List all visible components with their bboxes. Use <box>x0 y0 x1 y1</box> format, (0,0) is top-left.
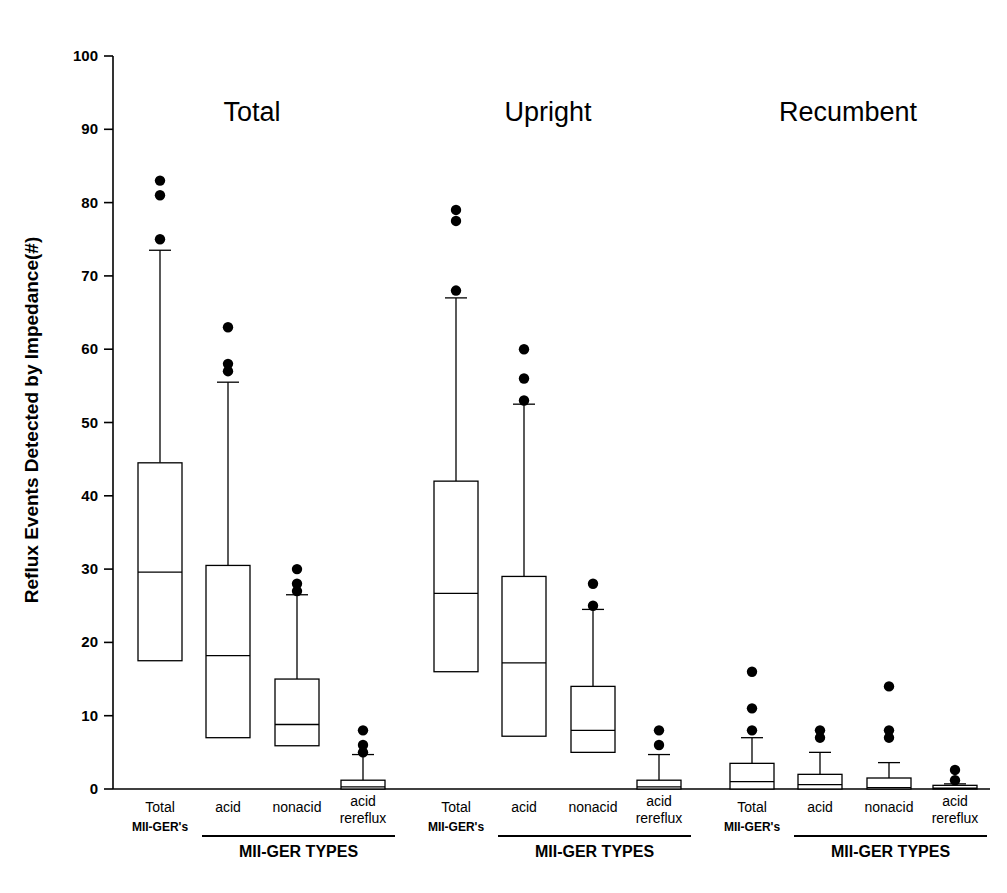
outlier-point <box>884 732 894 742</box>
y-axis-title: Reflux Events Detected by Impedance(#) <box>21 237 42 603</box>
y-tick-label: 10 <box>81 707 98 724</box>
box-body <box>571 686 615 752</box>
boxplot-svg: Reflux Events Detected by Impedance(#) 0… <box>0 0 1007 893</box>
box-body <box>434 481 478 672</box>
y-tick-label: 40 <box>81 487 98 504</box>
cat-label-nonacid: nonacid <box>272 799 321 815</box>
box-body <box>275 679 319 746</box>
chart-figure: Reflux Events Detected by Impedance(#) 0… <box>0 0 1007 893</box>
box-body <box>798 774 842 789</box>
outlier-point <box>155 190 165 200</box>
y-tick-label: 20 <box>81 633 98 650</box>
group-axis-label: MII-GER TYPES <box>535 843 654 860</box>
y-tick-label: 80 <box>81 194 98 211</box>
panel-title-recumbent: Recumbent <box>779 97 918 127</box>
outlier-point <box>155 234 165 244</box>
cat-label-rereflux: acid <box>942 793 968 809</box>
y-tick-label: 30 <box>81 560 98 577</box>
box-body <box>206 565 250 737</box>
outlier-point <box>451 205 461 215</box>
box-plot-item <box>798 725 842 789</box>
cat-label-total-sub: MII-GER's <box>724 820 781 834</box>
cat-label-rereflux: acid <box>350 793 376 809</box>
cat-label-total: Total <box>441 799 471 815</box>
category-label-group: TotalMII-GER'sacidnonacidacidrerefluxMII… <box>132 793 987 860</box>
y-tick-label: 0 <box>90 780 98 797</box>
cat-label-rereflux-sub: rereflux <box>340 810 387 826</box>
cat-label-nonacid: nonacid <box>568 799 617 815</box>
outlier-point <box>747 725 757 735</box>
outlier-point <box>747 667 757 677</box>
cat-label-total-sub: MII-GER's <box>428 820 485 834</box>
box-body <box>637 780 681 789</box>
cat-label-acid: acid <box>215 799 241 815</box>
box-plot-item <box>867 681 911 789</box>
cat-label-acid: acid <box>807 799 833 815</box>
outlier-point <box>223 322 233 332</box>
box-plot-item <box>637 725 681 789</box>
cat-label-rereflux-sub: rereflux <box>932 810 979 826</box>
cat-label-total-sub: MII-GER's <box>132 820 189 834</box>
outlier-point <box>588 601 598 611</box>
y-tick-label: 90 <box>81 120 98 137</box>
box-plot-group <box>138 175 977 789</box>
group-axis-label: MII-GER TYPES <box>239 843 358 860</box>
outlier-point <box>292 564 302 574</box>
box-body <box>502 576 546 736</box>
cat-label-total: Total <box>737 799 767 815</box>
outlier-point <box>358 725 368 735</box>
y-tick-label: 100 <box>73 47 98 64</box>
y-tick-label: 60 <box>81 340 98 357</box>
box-plot-item <box>341 725 385 789</box>
panel-title-total: Total <box>223 97 280 127</box>
box-plot-item <box>571 579 615 753</box>
box-plot-item <box>275 564 319 746</box>
box-body <box>730 763 774 789</box>
box-plot-item <box>434 205 478 672</box>
outlier-point <box>519 395 529 405</box>
outlier-point <box>451 216 461 226</box>
box-plot-item <box>933 765 977 789</box>
outlier-point <box>358 747 368 757</box>
outlier-point <box>950 765 960 775</box>
outlier-point <box>519 344 529 354</box>
outlier-point <box>815 732 825 742</box>
outlier-point <box>588 579 598 589</box>
outlier-point <box>654 725 664 735</box>
outlier-point <box>519 373 529 383</box>
box-plot-item <box>730 667 774 789</box>
outlier-point <box>451 285 461 295</box>
outlier-point <box>654 740 664 750</box>
box-body <box>138 463 182 661</box>
cat-label-acid: acid <box>511 799 537 815</box>
cat-label-nonacid: nonacid <box>864 799 913 815</box>
outlier-point <box>223 366 233 376</box>
box-plot-item <box>138 175 182 660</box>
cat-label-total: Total <box>145 799 175 815</box>
box-body <box>341 780 385 789</box>
cat-label-rereflux: acid <box>646 793 672 809</box>
outlier-point <box>950 775 960 785</box>
y-tick-label: 50 <box>81 414 98 431</box>
y-tick-group: 0102030405060708090100 <box>73 47 113 797</box>
outlier-point <box>292 586 302 596</box>
outlier-point <box>747 703 757 713</box>
outlier-point <box>884 681 894 691</box>
panel-title-upright: Upright <box>504 97 592 127</box>
cat-label-rereflux-sub: rereflux <box>636 810 683 826</box>
group-axis-label: MII-GER TYPES <box>831 843 950 860</box>
box-plot-item <box>502 344 546 736</box>
y-tick-label: 70 <box>81 267 98 284</box>
outlier-point <box>155 175 165 185</box>
box-plot-item <box>206 322 250 738</box>
